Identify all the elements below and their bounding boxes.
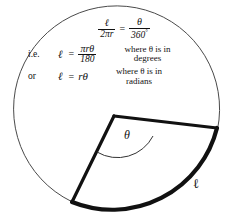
fraction-arc-over-circumference: ℓ 2πr <box>98 18 115 39</box>
lhs-arc-length-3: ℓ <box>58 71 65 82</box>
fraction-pirtheta-over-180: πrθ 180 <box>78 44 96 65</box>
equation-row-3: or ℓ = rθ where θ is in radians <box>26 67 218 86</box>
note-degrees: where θ is in degrees <box>108 45 186 64</box>
equation-row-1: ℓ 2πr = θ 360° <box>26 17 218 41</box>
equals-sign-1: = <box>115 24 129 34</box>
sector-arc-length <box>72 128 217 210</box>
numerator-arc-length: ℓ <box>103 18 111 29</box>
lead-or: or <box>26 72 58 82</box>
sector-radius-right <box>114 116 217 128</box>
sector-radius-left <box>72 116 114 202</box>
degree-symbol: ° <box>145 29 147 35</box>
figure-canvas: ℓ 2πr = θ 360° i.e. ℓ = πrθ 180 where θ … <box>0 0 230 224</box>
lead-ie: i.e. <box>26 50 58 60</box>
angle-theta-label: θ <box>124 128 130 143</box>
numerator-pirtheta: πrθ <box>78 44 96 55</box>
rhs-r-theta: rθ <box>78 71 88 82</box>
equation-row-2: i.e. ℓ = πrθ 180 where θ is in degrees <box>26 44 218 65</box>
denominator-circumference: 2πr <box>98 29 115 40</box>
equals-sign-2: = <box>65 49 79 59</box>
note-degrees-line2: degrees <box>108 54 186 63</box>
fraction-theta-over-360: θ 360° <box>129 17 150 41</box>
lhs-arc-length-2: ℓ <box>58 49 65 60</box>
denominator-180: 180 <box>78 54 96 65</box>
note-radians: where θ is in radians <box>100 67 178 86</box>
note-radians-line2: radians <box>100 77 178 86</box>
equals-sign-3: = <box>65 72 79 82</box>
note-radians-line1: where θ is in <box>116 66 162 76</box>
formula-block: ℓ 2πr = θ 360° i.e. ℓ = πrθ 180 where θ … <box>26 17 218 86</box>
denominator-360: 360° <box>129 28 150 41</box>
numerator-theta: θ <box>135 17 144 28</box>
